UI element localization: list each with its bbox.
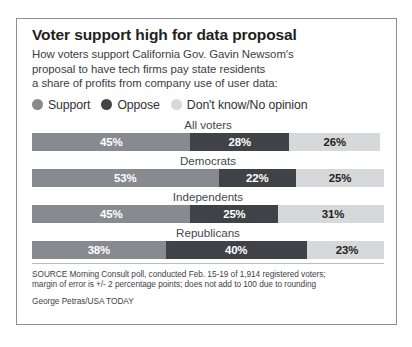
bar-group-independents: Independents 45% 25% 31%: [32, 189, 384, 223]
legend-item-support: Support: [32, 98, 90, 112]
bar-group-label: Democrats: [32, 153, 384, 169]
bar-group-all-voters: All voters 45% 28% 26%: [32, 117, 384, 151]
infographic-canvas: Voter support high for data proposal How…: [0, 0, 412, 347]
legend-label-support: Support: [48, 98, 90, 112]
bar-segment-dontknow: 23%: [307, 241, 384, 259]
source-note: SOURCE Morning Consult poll, conducted F…: [32, 269, 384, 290]
legend-label-dontknow: Don't know/No opinion: [187, 98, 308, 112]
legend-label-oppose: Oppose: [117, 98, 159, 112]
subhead-line-1: How voters support California Gov. Gavin…: [32, 47, 384, 62]
subhead: How voters support California Gov. Gavin…: [32, 47, 384, 91]
chart-bars: All voters 45% 28% 26% Democrats 53% 22%…: [32, 117, 384, 259]
stacked-bar: 53% 22% 25%: [32, 169, 384, 187]
bar-segment-support: 45%: [32, 133, 190, 151]
bar-group-democrats: Democrats 53% 22% 25%: [32, 153, 384, 187]
bar-group-label: Independents: [32, 189, 384, 205]
bar-segment-oppose: 22%: [219, 169, 296, 187]
source-line-1: SOURCE Morning Consult poll, conducted F…: [32, 269, 384, 280]
bar-segment-support: 53%: [32, 169, 219, 187]
stacked-bar: 45% 28% 26%: [32, 133, 384, 151]
page-title: Voter support high for data proposal: [32, 25, 384, 45]
legend-dot-support-icon: [32, 99, 43, 110]
source-line-2: margin of error is +/- 2 percentage poin…: [32, 279, 384, 290]
subhead-line-3: a share of profits from company use of u…: [32, 76, 384, 91]
legend-item-oppose: Oppose: [101, 98, 159, 112]
bar-group-republicans: Republicans 38% 40% 23%: [32, 225, 384, 259]
chart-legend: Support Oppose Don't know/No opinion: [32, 98, 384, 112]
stacked-bar: 45% 25% 31%: [32, 205, 384, 223]
byline: George Petras/USA TODAY: [32, 296, 384, 306]
bar-group-label: Republicans: [32, 225, 384, 241]
bar-segment-dontknow: 26%: [289, 133, 381, 151]
legend-item-dontknow: Don't know/No opinion: [171, 98, 308, 112]
bar-segment-support: 38%: [32, 241, 166, 259]
bar-segment-dontknow: 31%: [278, 205, 384, 223]
bar-group-label: All voters: [32, 117, 384, 133]
bar-segment-oppose: 25%: [190, 205, 278, 223]
subhead-line-2: proposal to have tech firms pay state re…: [32, 62, 384, 77]
footer-divider: [32, 263, 384, 264]
infographic-frame: Voter support high for data proposal How…: [16, 18, 397, 325]
legend-dot-oppose-icon: [101, 99, 112, 110]
stacked-bar: 38% 40% 23%: [32, 241, 384, 259]
legend-dot-dontknow-icon: [171, 99, 182, 110]
bar-segment-support: 45%: [32, 205, 190, 223]
bar-segment-dontknow: 25%: [296, 169, 384, 187]
bar-segment-oppose: 28%: [190, 133, 289, 151]
bar-segment-oppose: 40%: [166, 241, 307, 259]
